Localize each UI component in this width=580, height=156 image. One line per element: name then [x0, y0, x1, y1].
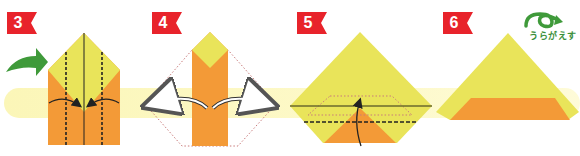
step-badge-6: 6 [443, 12, 473, 34]
step-badge-4: 4 [152, 12, 182, 34]
step-5-diagram [290, 32, 432, 146]
step-4-diagram [145, 32, 276, 146]
flip-over-label: うらがえす [529, 29, 577, 42]
origami-instructions: 3 4 5 6 うらがえす [0, 0, 580, 156]
fold-diagrams [0, 0, 580, 156]
flip-over-icon [526, 14, 563, 27]
step-3-diagram [6, 33, 120, 145]
step-badge-5: 5 [297, 12, 327, 34]
paper-orange [450, 98, 570, 120]
step-badge-3: 3 [7, 12, 37, 34]
turn-over-arrow-icon [6, 48, 48, 76]
step-number: 3 [7, 12, 29, 34]
step-number: 6 [443, 12, 465, 34]
step-number: 4 [152, 12, 174, 34]
step-number: 5 [297, 12, 319, 34]
